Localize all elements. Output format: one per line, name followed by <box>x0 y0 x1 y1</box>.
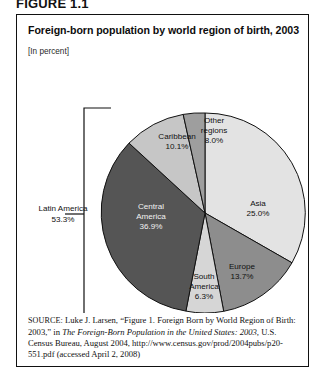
slice-label-other-regions-value: 8.0% <box>205 136 223 145</box>
slice-label-other-regions-name-line2: regions <box>201 126 228 135</box>
slice-label-other-regions-name-line1: Other <box>204 116 225 125</box>
slice-label-south-america-name-line2: America <box>189 282 219 291</box>
figure-panel: Foreign-born population by world region … <box>16 14 309 367</box>
slice-label-asia-value: 25.0% <box>247 209 270 218</box>
slice-label-caribbean-name: Caribbean <box>158 132 195 141</box>
pie-chart-svg: Asia 25.0% Europe 13.7% South America 6.… <box>17 61 308 313</box>
slice-label-south-america-name-line1: South <box>193 272 214 281</box>
slice-label-asia-name: Asia <box>250 199 266 208</box>
slice-label-central-america-name-line2: America <box>136 212 166 221</box>
slice-label-europe-value: 13.7% <box>231 272 254 281</box>
callout-latin-america-name: Latin America <box>38 204 88 213</box>
pie-chart-plot-area: Asia 25.0% Europe 13.7% South America 6.… <box>17 61 308 313</box>
source-kicker: SOURCE: <box>28 316 63 325</box>
chart-units-note: [In percent] <box>28 47 69 56</box>
source-note: SOURCE: Luke J. Larsen, “Figure 1. Forei… <box>28 315 300 360</box>
slice-label-caribbean-value: 10.1% <box>166 142 189 151</box>
callout-latin-america-value: 53.3% <box>52 215 75 224</box>
slice-label-central-america-name-line1: Central <box>138 202 164 211</box>
figure-number-label: FIGURE 1.1 <box>16 0 89 11</box>
slice-label-south-america-value: 6.3% <box>195 292 213 301</box>
chart-title: Foreign-born population by world region … <box>28 24 300 37</box>
slice-label-central-america-value: 36.9% <box>140 222 163 231</box>
source-publication-title: The Foreign-Born Population in the Unite… <box>62 327 259 337</box>
slice-label-europe-name: Europe <box>229 262 256 271</box>
